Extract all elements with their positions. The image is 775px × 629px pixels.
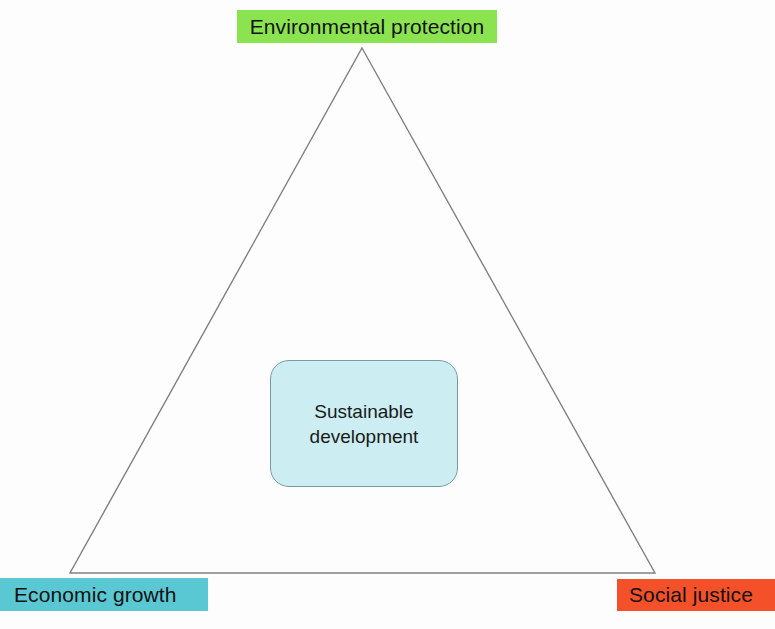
sustainability-triangle — [0, 0, 775, 629]
corner-label-economic[interactable]: Economic growth — [0, 578, 208, 611]
center-node-line-1: Sustainable — [314, 399, 413, 424]
triangle-outline — [70, 48, 655, 573]
corner-label-social-text: Social justice — [629, 583, 753, 607]
corner-label-environmental[interactable]: Environmental protection — [237, 10, 497, 43]
center-node-sustainable-development[interactable]: Sustainable development — [270, 360, 458, 487]
corner-label-economic-text: Economic growth — [14, 583, 177, 607]
diagram-canvas: Environmental protection Economic growth… — [0, 0, 775, 629]
corner-label-environmental-text: Environmental protection — [250, 15, 485, 39]
center-node-line-2: development — [310, 424, 419, 449]
corner-label-social[interactable]: Social justice — [617, 579, 775, 611]
